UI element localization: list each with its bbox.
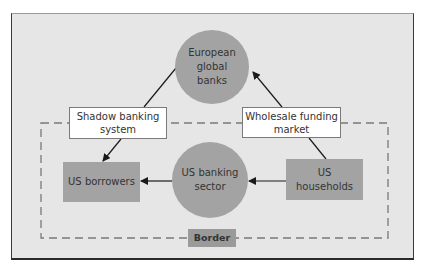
node-label: European global banks [188,46,236,88]
node-european-global-banks: European global banks [175,30,249,104]
node-us-households: US households [286,159,363,200]
node-label: Wholesale funding market [245,110,338,136]
node-label: US borrowers [68,175,135,189]
node-wholesale-funding-market: Wholesale funding market [242,107,341,138]
edge-wholesale-to-european [253,72,282,107]
edge-households-to-wholesale [309,138,326,159]
edge-shadow-to-borrowers [103,139,121,161]
node-shadow-banking-system: Shadow banking system [69,107,167,139]
node-us-banking-sector: US banking sector [172,142,248,218]
node-label: US households [296,166,353,194]
node-us-borrowers: US borrowers [63,162,140,202]
node-label: Shadow banking system [77,110,160,136]
node-label: US banking sector [182,166,239,194]
edge-european-to-shadow [144,68,176,107]
diagram-canvas: European global banks Shadow banking sys… [0,0,425,272]
border-label: Border [188,229,236,247]
node-label: Border [194,231,230,245]
